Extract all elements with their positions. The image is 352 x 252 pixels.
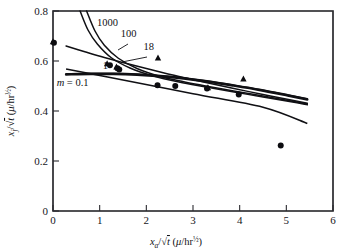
label-1: 1 (103, 60, 108, 71)
data-point-circle (236, 92, 242, 98)
x-tick-label-3: 3 (190, 214, 196, 226)
data-point-circle (278, 143, 284, 149)
label-m: m = 0.1 (57, 77, 89, 88)
x-tick-label-1: 1 (97, 214, 103, 226)
x-tick-label-4: 4 (237, 214, 243, 226)
x-tick-label-5: 5 (284, 214, 290, 226)
figure-page: 0123456 00.20.40.60.8 1000100181m = 0.1 … (0, 0, 352, 252)
y-tick-label-0: 0 (43, 205, 49, 217)
label-100: 100 (121, 28, 137, 39)
label-18: 18 (143, 41, 154, 52)
scatter-chart: 0123456 00.20.40.60.8 1000100181m = 0.1 … (0, 0, 352, 252)
x-tick-label-6: 6 (330, 214, 336, 226)
label-1000: 1000 (97, 17, 118, 28)
y-tick-label-0.4: 0.4 (34, 105, 48, 117)
y-tick-label-0.2: 0.2 (34, 155, 48, 167)
data-point-circle (155, 82, 161, 88)
x-tick-label-2: 2 (144, 214, 150, 226)
y-tick-label-0.8: 0.8 (34, 5, 48, 17)
data-point-circle (172, 83, 178, 89)
y-tick-label-0.6: 0.6 (34, 55, 48, 67)
x-tick-label-0: 0 (50, 214, 56, 226)
